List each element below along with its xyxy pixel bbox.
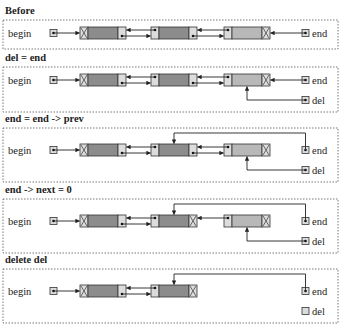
data-cell [88,144,118,156]
list-node-2 [151,285,197,297]
end-label: end [312,145,328,156]
list-node-1 [80,27,126,39]
del-arrow [247,228,306,242]
data-cell [159,285,189,297]
del-label: del [312,236,325,247]
end-label: end [312,216,328,227]
del-pointer [302,308,309,315]
list-node-1 [80,74,126,86]
panel-4: end -> next = 0beginenddel [3,184,338,253]
list-node-3 [224,27,270,39]
panel-5: delete delbeginenddel [3,254,338,323]
del-label: del [312,165,325,176]
del-arrow [247,157,306,171]
del-label: del [312,306,325,317]
data-cell [232,27,262,39]
begin-label: begin [8,145,32,156]
panel-2: del = endbeginenddel [3,52,338,112]
data-cell [232,74,262,86]
list-node-3 [224,74,270,86]
list-node-3 [224,144,270,156]
list-node-2 [151,74,197,86]
panel-title: Before [5,5,35,16]
panel-title: end -> next = 0 [5,184,72,195]
data-cell [232,215,262,227]
begin-label: begin [8,286,32,297]
begin-label: begin [8,28,32,39]
del-arrow [247,87,306,101]
data-cell [88,215,118,227]
del-label: del [312,95,325,106]
data-cell [159,27,189,39]
begin-label: begin [8,75,32,86]
linked-list-diagram: Beforebeginenddel = endbeginenddelend = … [0,0,344,332]
list-node-2 [151,27,197,39]
list-node-1 [80,144,126,156]
data-cell [88,74,118,86]
del-pointer-box [302,308,309,315]
panel-title: del = end [5,52,46,63]
list-node-3 [224,215,270,227]
list-node-1 [80,215,126,227]
panel-title: delete del [5,254,47,265]
data-cell [88,27,118,39]
data-cell [159,74,189,86]
list-node-2 [151,144,197,156]
panel-1: Beforebeginend [3,5,338,49]
end-label: end [312,28,328,39]
begin-label: begin [8,216,32,227]
data-cell [232,144,262,156]
end-label: end [312,75,328,86]
end-label: end [312,286,328,297]
data-cell [159,215,189,227]
data-cell [88,285,118,297]
list-node-2 [151,215,197,227]
panel-title: end = end -> prev [5,113,85,124]
panel-3: end = end -> prevbeginenddel [3,113,338,182]
list-node-1 [80,285,126,297]
data-cell [159,144,189,156]
